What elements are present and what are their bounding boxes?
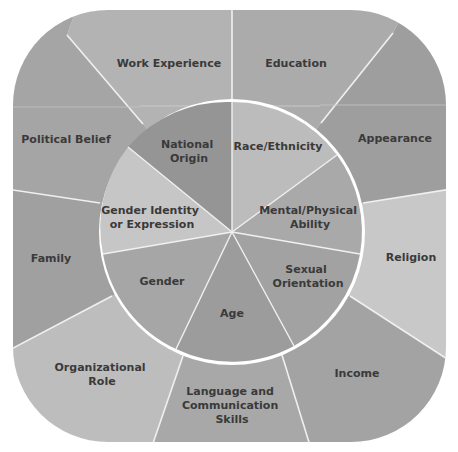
label-family: Family <box>31 252 71 265</box>
label-gender: Gender <box>139 275 185 288</box>
label-income: Income <box>335 367 380 380</box>
label-race-ethnicity: Race/Ethnicity <box>234 140 323 153</box>
label-gender-identity: Gender Identity or Expression <box>101 204 202 231</box>
label-education: Education <box>265 57 327 70</box>
label-work-experience: Work Experience <box>117 57 221 70</box>
label-appearance: Appearance <box>358 132 432 145</box>
diversity-wheel: Work Experience Education Appearance Rel… <box>0 0 458 452</box>
label-age: Age <box>220 307 244 320</box>
inner-ring <box>100 102 362 362</box>
label-political-belief: Political Belief <box>21 133 111 146</box>
label-religion: Religion <box>386 251 437 264</box>
